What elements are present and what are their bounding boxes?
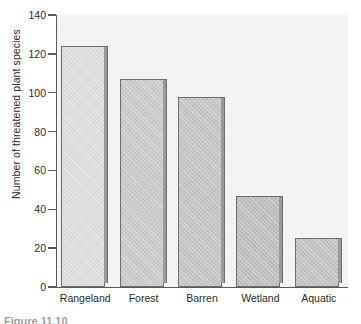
y-axis-tick-label: 40 [6, 203, 46, 215]
bar-side-shadow [338, 238, 342, 283]
y-axis-line [56, 15, 57, 287]
bar-fill [296, 239, 338, 286]
bar-fill [121, 80, 163, 286]
x-axis-label-barren: Barren [173, 292, 231, 304]
x-axis-label-rangeland: Rangeland [56, 292, 114, 304]
y-axis-tick [48, 14, 56, 15]
bar-barren [178, 97, 222, 287]
y-axis-tick-label: 20 [6, 242, 46, 254]
y-axis-tick-label: 80 [6, 126, 46, 138]
bar-rangeland [61, 46, 105, 287]
bar-fill [179, 98, 221, 286]
x-axis-label-wetland: Wetland [231, 292, 289, 304]
y-axis-tick [48, 209, 56, 210]
bar-side-shadow [104, 46, 108, 283]
bar-wetland [236, 196, 280, 287]
y-axis-tick [48, 53, 56, 54]
bar-side-shadow [163, 79, 167, 283]
x-axis-label-aquatic: Aquatic [290, 292, 348, 304]
bar-fill [237, 197, 279, 286]
y-axis-tick-label: 140 [6, 9, 46, 21]
y-axis-tick-label: 120 [6, 48, 46, 60]
y-axis-tick [48, 247, 56, 248]
bar-side-shadow [221, 97, 225, 283]
y-axis-tick [48, 286, 56, 287]
x-axis-label-forest: Forest [114, 292, 172, 304]
bar-fill [62, 47, 104, 286]
y-axis-title: Number of threatened plant species [10, 0, 22, 234]
y-axis-tick [48, 170, 56, 171]
y-axis-tick [48, 92, 56, 93]
y-axis-tick [48, 131, 56, 132]
figure-caption: Figure 11.10 [4, 315, 68, 324]
bar-side-shadow [279, 196, 283, 283]
bar-aquatic [295, 238, 339, 287]
bar-forest [120, 79, 164, 287]
figure-container: Number of threatened plant species 02040… [0, 0, 361, 324]
y-axis-tick-label: 100 [6, 87, 46, 99]
y-axis-tick-label: 60 [6, 164, 46, 176]
y-axis-tick-label: 0 [6, 281, 46, 293]
